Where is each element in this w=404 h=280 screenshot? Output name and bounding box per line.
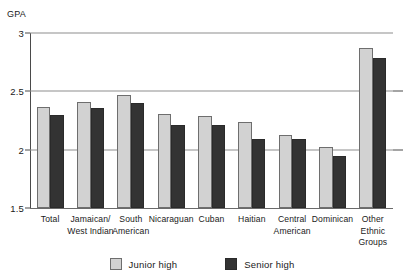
bar-group [238,33,265,208]
bar-junior-high [77,102,91,208]
bar-junior-high [359,48,373,208]
bar-junior-high [37,107,51,209]
bar-junior-high [198,116,212,208]
bar-senior-high [252,139,266,208]
bar-junior-high [158,114,172,209]
bar-junior-high [279,135,293,209]
bar-senior-high [50,115,64,208]
y-axis-title: GPA [7,9,26,19]
bar-junior-high [319,147,333,208]
gpa-grouped-bar-chart: GPA 1.522.53 TotalJamaican/West IndianSo… [0,0,404,280]
x-axis-category-label: OtherEthnicGroups [349,214,397,249]
bar-group [77,33,104,208]
bar-senior-high [212,125,226,208]
bar-senior-high [171,125,185,208]
bar-junior-high [117,95,131,208]
bar-senior-high [373,58,387,209]
legend-label-junior-high: Junior high [129,259,178,270]
bar-senior-high [131,103,145,208]
bar-senior-high [292,139,306,208]
bar-group [279,33,306,208]
legend-item-junior-high: Junior high [110,258,178,270]
bar-senior-high [91,108,105,208]
bar-group [37,33,64,208]
bar-senior-high [333,156,347,209]
bar-group [198,33,225,208]
legend-swatch-junior-high [110,258,122,270]
bar-group [117,33,144,208]
bar-junior-high [238,122,252,208]
y-axis-tick-label: 2 [0,144,24,155]
y-axis-tick-label: 1.5 [0,203,24,214]
y-axis-tick-label: 2.5 [0,86,24,97]
bar-group [319,33,346,208]
x-axis-baseline [30,208,393,209]
plot-area [30,33,393,208]
y-axis-tick-right [393,149,403,150]
legend-label-senior-high: Senior high [244,259,294,270]
legend-swatch-senior-high [225,258,237,270]
y-axis-tick-right [393,91,403,92]
y-axis-tick-label: 3 [0,28,24,39]
bar-group [359,33,386,208]
legend-item-senior-high: Senior high [225,258,294,270]
chart-legend: Junior high Senior high [0,258,404,270]
bar-group [158,33,185,208]
